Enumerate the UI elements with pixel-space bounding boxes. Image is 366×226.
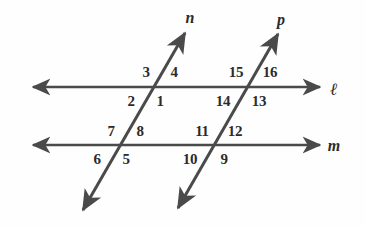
angle-14-label: 14 — [216, 94, 230, 109]
angle-13-label: 13 — [252, 94, 266, 109]
angle-11-label: 11 — [195, 124, 209, 139]
angle-15-label: 15 — [229, 65, 243, 80]
angle-5-label: 5 — [122, 152, 129, 167]
line-l-label: ℓ — [330, 81, 337, 98]
line-n-stroke — [83, 33, 185, 210]
line-p-label: p — [277, 12, 285, 28]
angle-16-label: 16 — [263, 65, 277, 80]
angle-7-label: 7 — [107, 124, 114, 139]
angle-12-label: 12 — [228, 124, 242, 139]
angle-1-label: 1 — [156, 94, 163, 109]
line-n-label: n — [186, 10, 195, 26]
angle-9-label: 9 — [220, 152, 227, 167]
line-m-label: m — [328, 138, 340, 154]
angle-6-label: 6 — [93, 152, 100, 167]
angle-4-label: 4 — [170, 65, 177, 80]
angle-2-label: 2 — [127, 94, 134, 109]
angle-8-label: 8 — [136, 124, 143, 139]
geometry-figure: ℓmnp 12345678910111213141516 — [0, 0, 366, 226]
angle-3-label: 3 — [142, 65, 149, 80]
line-p-stroke — [178, 34, 278, 208]
figure-canvas — [0, 0, 366, 226]
angle-10-label: 10 — [183, 152, 197, 167]
line-group — [33, 33, 320, 210]
